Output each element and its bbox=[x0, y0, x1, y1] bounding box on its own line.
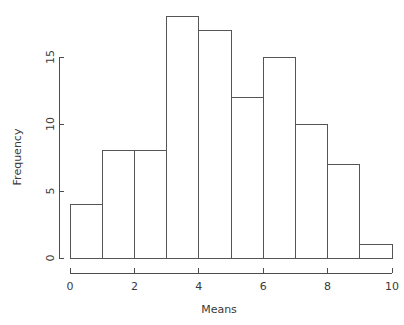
histogram-bar bbox=[134, 151, 166, 258]
y-axis-title: Frequency bbox=[11, 128, 24, 185]
histogram-bar bbox=[263, 57, 295, 258]
x-tick-label: 4 bbox=[195, 280, 202, 293]
x-tick-label: 2 bbox=[131, 280, 138, 293]
x-axis bbox=[70, 268, 392, 273]
y-tick-label: 5 bbox=[44, 188, 57, 195]
x-axis-title: Means bbox=[201, 303, 237, 316]
x-tick-label: 8 bbox=[324, 280, 331, 293]
histogram-bar bbox=[360, 245, 392, 258]
histogram-bar bbox=[328, 164, 360, 258]
y-axis bbox=[59, 57, 64, 258]
x-tick-label: 0 bbox=[67, 280, 74, 293]
histogram-bars bbox=[70, 17, 392, 258]
histogram-bar bbox=[70, 204, 102, 258]
y-tick-label: 15 bbox=[44, 50, 57, 64]
y-tick-labels: 051015 bbox=[44, 50, 57, 262]
x-tick-label: 6 bbox=[260, 280, 267, 293]
histogram-bar bbox=[295, 124, 327, 258]
y-tick-label: 0 bbox=[44, 255, 57, 262]
x-tick-label: 10 bbox=[385, 280, 399, 293]
histogram-bar bbox=[231, 97, 263, 258]
histogram-bar bbox=[167, 17, 199, 258]
histogram-bar bbox=[102, 151, 134, 258]
x-tick-labels: 0246810 bbox=[67, 280, 400, 293]
y-tick-label: 10 bbox=[44, 117, 57, 131]
histogram-bar bbox=[199, 30, 231, 258]
histogram-figure: 0246810 051015 Means Frequency bbox=[0, 0, 404, 325]
histogram-plot-area: 0246810 051015 Means Frequency bbox=[0, 0, 404, 325]
plot-surface: 0246810 051015 Means Frequency bbox=[0, 0, 404, 325]
